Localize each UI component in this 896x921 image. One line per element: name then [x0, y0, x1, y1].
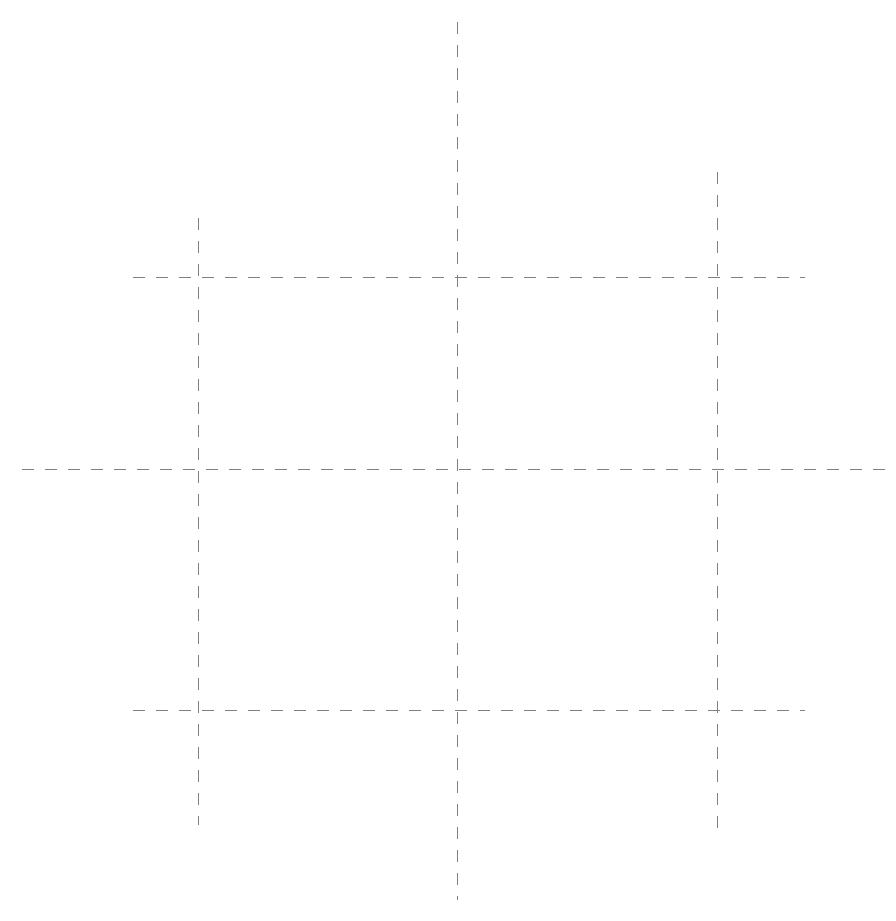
diagram-canvas [0, 0, 896, 921]
canvas-background [0, 0, 896, 921]
dashed-grid-svg [0, 0, 896, 921]
